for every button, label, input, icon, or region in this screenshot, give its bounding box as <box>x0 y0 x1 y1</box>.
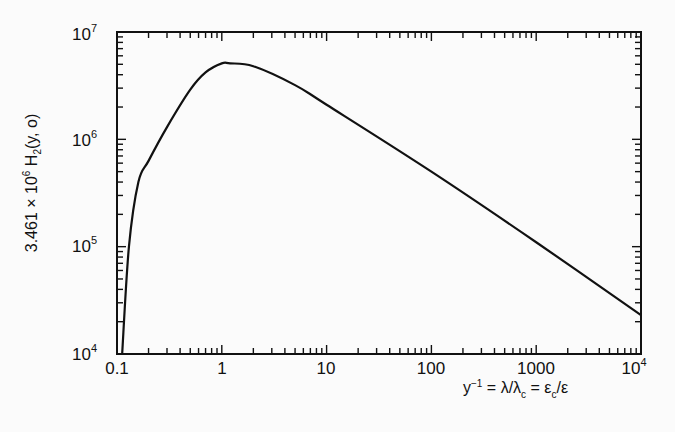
x-tick-label-1e4: 104 <box>621 356 646 378</box>
y-tick-label-1e7: 107 <box>72 22 97 44</box>
x-tick-label-1: 1 <box>217 359 226 378</box>
x-tick-label-1000: 1000 <box>517 359 555 378</box>
plot-frame <box>117 32 641 354</box>
x-tick-label-10: 10 <box>317 359 336 378</box>
y-tick-label-1e6: 106 <box>72 128 97 150</box>
chart: 107 106 105 104 0.1 1 10 100 1000 104 <box>0 0 675 432</box>
x-tick-label-0.1: 0.1 <box>105 359 129 378</box>
y-tick-label-1e4: 104 <box>72 342 97 364</box>
data-curve <box>122 63 641 354</box>
x-axis-label: y−1 = λ/λc = εc/ε <box>463 378 568 400</box>
axis-ticks <box>117 32 641 354</box>
y-axis-label: 3.461 × 106 H2(y, o) <box>21 114 43 252</box>
x-tick-label-100: 100 <box>417 359 445 378</box>
y-tick-label-1e5: 105 <box>72 234 97 256</box>
